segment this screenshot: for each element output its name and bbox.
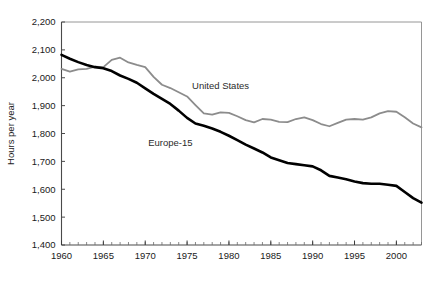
series-label-europe-15: Europe-15 — [148, 137, 192, 148]
x-tick-label: 1980 — [218, 250, 239, 261]
y-tick-label: 2,100 — [32, 44, 56, 55]
x-tick-label: 1995 — [344, 250, 365, 261]
y-axis-title: Hours per year — [5, 102, 16, 165]
x-tick-label: 1990 — [302, 250, 323, 261]
y-tick-label: 1,900 — [32, 100, 56, 111]
x-tick-label: 1965 — [93, 250, 114, 261]
y-tick-label: 1,400 — [32, 239, 56, 250]
y-tick-label: 2,200 — [32, 16, 56, 27]
x-tick-label: 1960 — [51, 250, 72, 261]
y-tick-label: 1,700 — [32, 156, 56, 167]
line-chart: 1,4001,5001,6001,7001,8001,9002,0002,100… — [0, 0, 434, 281]
y-tick-label: 2,000 — [32, 72, 56, 83]
y-tick-label: 1,800 — [32, 128, 56, 139]
x-tick-label: 1970 — [135, 250, 156, 261]
chart-figure: 1,4001,5001,6001,7001,8001,9002,0002,100… — [0, 0, 434, 281]
x-tick-label: 1985 — [260, 250, 281, 261]
series-label-united-states: United States — [192, 80, 249, 91]
x-tick-label: 2000 — [386, 250, 407, 261]
chart-background — [0, 0, 434, 281]
y-tick-label: 1,600 — [32, 184, 56, 195]
y-tick-label: 1,500 — [32, 212, 56, 223]
x-tick-label: 1975 — [177, 250, 198, 261]
